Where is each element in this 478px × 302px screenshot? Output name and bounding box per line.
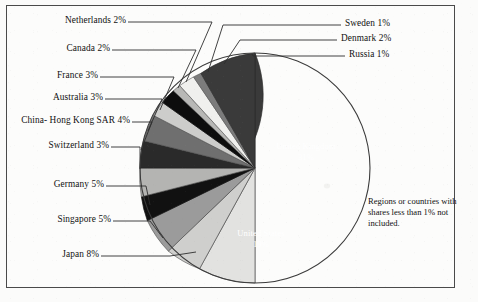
callout-label-germany: Germany 5% (0, 180, 104, 190)
callout-label-singapore: Singapore 5% (0, 215, 111, 225)
slice-label-united-kingdom-value: 31% (262, 152, 350, 163)
slice-label-united-states-value: 19% (222, 239, 300, 250)
callout-label-switzerland: Switzerland 3% (0, 141, 109, 151)
callout-label-france: France 3% (0, 71, 98, 81)
callout-label-australia: Australia 3% (0, 93, 103, 103)
callout-label-sweden: Sweden 1% (345, 19, 390, 29)
callout-label-denmark: Denmark 2% (341, 34, 391, 44)
leader-line-netherlands (128, 22, 212, 82)
pie-chart-figure: Netherlands 2% Canada 2% France 3% Austr… (0, 0, 478, 302)
slice-label-united-kingdom: United Kingdom 31% (262, 141, 350, 162)
scan-artifact-speck (324, 184, 330, 189)
leader-line-canada (112, 50, 196, 88)
callout-label-japan: Japan 8% (0, 250, 99, 260)
callout-label-china-hong-kong: China- Hong Kong SAR 4% (0, 116, 130, 126)
callout-label-canada: Canada 2% (0, 44, 110, 54)
leader-line-switzerland (111, 147, 140, 169)
slice-label-united-states-name: United States (222, 228, 300, 239)
callout-label-netherlands: Netherlands 2% (0, 16, 126, 26)
slice-label-united-kingdom-name: United Kingdom (262, 141, 350, 152)
figure-footnote: Regions or countries with shares less th… (368, 196, 472, 229)
callout-label-russia: Russia 1% (349, 50, 389, 60)
leader-line-russia (252, 54, 345, 56)
slice-label-united-states: United States 19% (222, 228, 300, 249)
